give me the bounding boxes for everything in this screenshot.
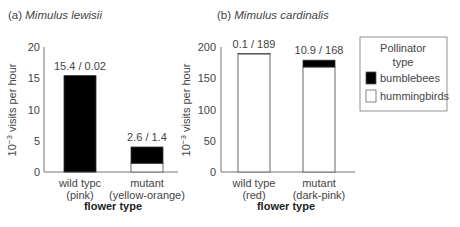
panel-b: (b) Mimulus cardinalis 10−3 visits per h… — [179, 9, 356, 212]
panel-b-x-tick-label: wild type — [232, 177, 276, 189]
panel-b-y-tick-label: 100 — [198, 104, 216, 116]
panel-a-x-tick-sublabel: (yellow-orange) — [109, 189, 185, 201]
panel-b-data-label: 10.9 / 168 — [295, 44, 344, 56]
panel-b-bar-hummingbirds — [238, 54, 270, 172]
panel-b-y-axis-label: 10−3 visits per hour — [179, 63, 193, 156]
panel-b-x-tick-sublabel: (red) — [242, 189, 265, 201]
panel-a: (a) Mimulus lewisii 10−3 visits per hour… — [5, 9, 185, 212]
panel-b-x-axis-label: flower type — [257, 200, 315, 212]
panel-a-y-tick-label: 0 — [34, 166, 40, 178]
panel-a-y-tick-label: 20 — [28, 41, 40, 53]
panel-b-y-tick-label: 50 — [204, 135, 216, 147]
panel-a-data-label: 2.6 / 1.4 — [127, 131, 167, 143]
panel-a-y-axis-label: 10−3 visits per hour — [5, 63, 19, 156]
legend-swatch-bumblebees — [366, 72, 376, 84]
panel-a-bar-hummingbirds — [131, 163, 163, 172]
panel-a-y-tick-label: 15 — [28, 72, 40, 84]
legend-label-hummingbirds: hummingbirds — [380, 90, 450, 102]
panel-b-x-tick-sublabel: (dark-pink) — [293, 189, 346, 201]
panel-b-data-label: 0.1 / 189 — [233, 38, 276, 50]
legend-title-line2: type — [393, 56, 414, 68]
panel-a-title: (a) Mimulus lewisii — [8, 9, 102, 21]
panel-a-bar-bumblebees — [64, 76, 96, 172]
legend: Pollinator type bumblebees hummingbirds — [360, 37, 450, 111]
panel-b-y-tick-label: 0 — [210, 166, 216, 178]
figure: (a) Mimulus lewisii 10−3 visits per hour… — [0, 0, 460, 227]
panel-b-x-tick-label: mutant — [302, 177, 336, 189]
panel-a-y-tick-label: 10 — [28, 104, 40, 116]
panel-b-bar-bumblebees — [303, 60, 335, 67]
panel-a-data-label: 15.4 / 0.02 — [54, 60, 106, 72]
panel-a-x-axis-label: flower type — [84, 200, 142, 212]
panel-b-title: (b) Mimulus cardinalis — [217, 9, 329, 21]
panel-a-x-tick-label: mutant — [130, 177, 164, 189]
panel-a-y-tick-label: 5 — [34, 135, 40, 147]
panel-b-bar-hummingbirds — [303, 67, 335, 172]
panel-b-y-tick-label: 150 — [198, 72, 216, 84]
panel-a-x-tick-label: wild typc — [58, 177, 102, 189]
panel-b-y-tick-label: 200 — [198, 41, 216, 53]
panel-a-bar-bumblebees — [131, 147, 163, 163]
legend-swatch-hummingbirds — [366, 90, 376, 102]
panel-a-x-tick-sublabel: (pink) — [66, 189, 94, 201]
legend-label-bumblebees: bumblebees — [380, 72, 440, 84]
legend-title-line1: Pollinator — [380, 42, 426, 54]
